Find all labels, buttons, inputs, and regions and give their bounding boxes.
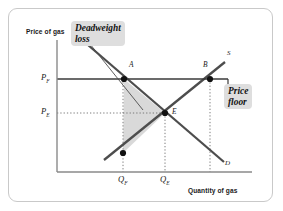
x-tick-quantity-floor-sub: F: [124, 180, 127, 186]
y-axis-title: Price of gas: [26, 29, 65, 36]
price-floor-callout: Price floor: [224, 84, 252, 109]
point-b-label: B: [203, 61, 208, 68]
point-b-marker: [207, 76, 213, 82]
supply-curve-label: S: [227, 50, 231, 57]
deadweight-loss-callout: Deadweight loss: [71, 21, 125, 46]
y-tick-price-equilibrium: PE: [41, 107, 50, 118]
y-tick-price-equilibrium-sub: E: [46, 112, 49, 118]
point-supply-qf-marker: [120, 150, 126, 156]
x-tick-quantity-equilibrium-sub: E: [166, 180, 169, 186]
point-a-marker: [121, 76, 127, 82]
y-tick-price-floor-sub: F: [46, 78, 49, 84]
y-tick-price-floor: PF: [41, 73, 50, 84]
x-axis-title: Quantity of gas: [188, 188, 238, 195]
deadweight-leader-line: [90, 44, 143, 110]
demand-curve-label: D: [225, 160, 230, 167]
x-tick-quantity-floor: QF: [118, 175, 128, 186]
point-e-marker: [162, 110, 168, 116]
point-e-label: E: [172, 108, 177, 115]
price-floor-diagram: Price of gas Quantity of gas PF PE QF QE…: [0, 0, 283, 211]
x-tick-quantity-equilibrium: QE: [160, 175, 170, 186]
point-a-label: A: [129, 61, 134, 68]
